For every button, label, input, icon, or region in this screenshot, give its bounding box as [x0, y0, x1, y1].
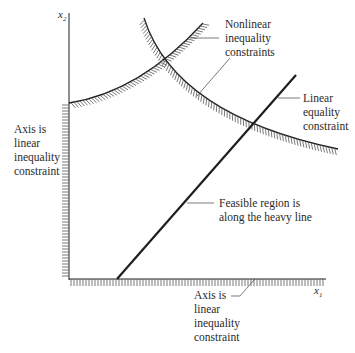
svg-text:Nonlinear: Nonlinear: [225, 18, 271, 30]
svg-text:Feasible region is: Feasible region is: [219, 197, 301, 210]
svg-text:along the heavy line: along the heavy line: [219, 211, 312, 224]
label-x-axis-constraint: Axis is linear inequality constraint: [194, 289, 240, 343]
svg-text:inequality: inequality: [14, 151, 60, 164]
linear-equality-constraint-line: [117, 75, 296, 279]
svg-text:equality: equality: [303, 106, 340, 119]
x-axis-hatching: [71, 279, 323, 286]
svg-text:Axis is: Axis is: [14, 123, 47, 135]
svg-text:Axis is: Axis is: [194, 289, 227, 301]
svg-text:Linear: Linear: [303, 92, 333, 104]
svg-text:constraints: constraints: [225, 46, 275, 58]
svg-text:linear: linear: [194, 303, 220, 315]
svg-text:constraint: constraint: [194, 331, 240, 343]
x-axis-label: x1: [313, 284, 322, 299]
nonlinear-constraint-curve-1: [69, 23, 203, 103]
svg-text:linear: linear: [14, 137, 40, 149]
label-y-axis-constraint: Axis is linear inequality constraint: [14, 123, 60, 177]
label-feasible-region: Feasible region is along the heavy line: [219, 197, 312, 224]
nonlinear-constraint-1-hatching: [71, 24, 209, 108]
y-axis-label: x2: [57, 8, 67, 23]
label-linear-equality-constraint: Linear equality constraint: [303, 92, 349, 132]
y-axis-hatching: [62, 105, 69, 276]
constraint-diagram: x2 x1 Nonlinear inequality constraints L…: [0, 0, 355, 353]
svg-text:inequality: inequality: [194, 317, 240, 330]
svg-text:inequality: inequality: [225, 32, 271, 45]
svg-text:constraint: constraint: [303, 120, 349, 132]
label-nonlinear-constraints: Nonlinear inequality constraints: [225, 18, 275, 58]
pointer-nonlinear-2: [197, 58, 230, 96]
svg-text:constraint: constraint: [14, 165, 60, 177]
